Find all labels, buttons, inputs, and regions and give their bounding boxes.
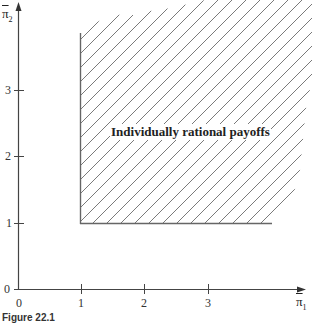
- x-tick-label-3: 3: [205, 297, 211, 309]
- figure-caption: Figure 22.1: [2, 312, 55, 323]
- y-tick-label-2: 2: [5, 150, 11, 162]
- y-axis-subscript: 2: [9, 15, 13, 24]
- x-tick-label-2: 2: [141, 297, 147, 309]
- y-axis-label: π2: [2, 6, 13, 24]
- y-axis-arrow-icon: [16, 2, 22, 11]
- x-axis-label: π1: [296, 294, 307, 312]
- y-tick-label-0: 0: [4, 283, 10, 295]
- y-tick-label-1: 1: [6, 217, 12, 229]
- hatch-pattern: [0, 0, 312, 224]
- y-tick-label-3: 3: [5, 84, 11, 96]
- x-axis-arrow-icon: [297, 287, 306, 293]
- x-axis-symbol: π: [296, 294, 303, 309]
- region-label: Individually rational payoffs: [110, 124, 271, 140]
- x-tick-label-0: 0: [16, 297, 22, 309]
- x-tick-label-1: 1: [78, 297, 84, 309]
- y-axis-symbol: π: [2, 6, 9, 21]
- x-axis-subscript: 1: [303, 303, 307, 312]
